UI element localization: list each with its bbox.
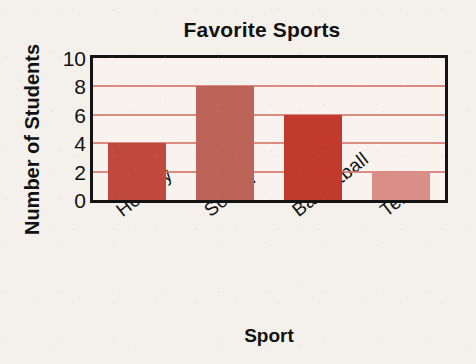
y-tick-label-8: 8: [46, 76, 86, 97]
bar-tennis[interactable]: [372, 172, 430, 200]
bar-soccer[interactable]: [196, 86, 254, 200]
y-tick-label-4: 4: [46, 133, 86, 154]
y-tick-label-10: 10: [46, 48, 86, 69]
bar-basketball[interactable]: [284, 115, 342, 200]
x-axis-title: Sport: [90, 325, 448, 347]
gridline-8: [93, 85, 445, 87]
gridline-6: [93, 114, 445, 116]
y-axis-tick-labels: 0246810: [34, 55, 86, 203]
x-axis-tick-labels: HockeySoccerBasketballTennis: [90, 204, 448, 304]
y-tick-label-6: 6: [46, 105, 86, 126]
plot-area: [90, 55, 448, 203]
bar-hockey[interactable]: [108, 143, 166, 200]
y-tick-label-2: 2: [46, 162, 86, 183]
chart-title: Favorite Sports: [0, 18, 476, 42]
favorite-sports-bar-chart: Favorite Sports Number of Students 02468…: [0, 0, 476, 364]
y-tick-label-0: 0: [46, 190, 86, 211]
